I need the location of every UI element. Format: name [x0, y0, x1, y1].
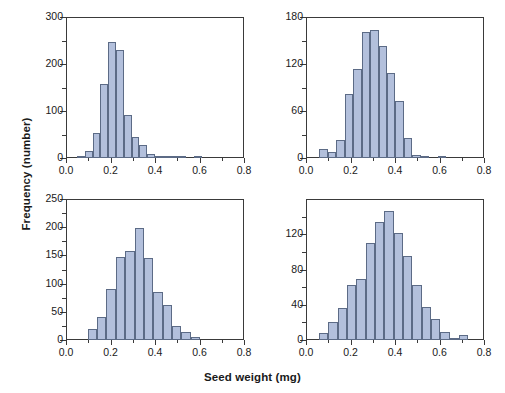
x-tick	[111, 158, 112, 163]
x-tick-minor	[222, 340, 223, 343]
y-tick-label: 120	[285, 227, 303, 239]
panel-c: (c) Battle Mountain 2002 050100150200250…	[28, 190, 250, 370]
histogram-bar	[379, 46, 387, 158]
y-tick-label: 180	[285, 10, 303, 22]
x-tick-minor	[328, 158, 329, 161]
y-tick-label: 0	[57, 151, 63, 163]
histogram-bar	[394, 233, 403, 340]
x-tick-minor	[133, 158, 134, 161]
x-tick-minor	[417, 340, 418, 343]
y-tick-minor	[302, 252, 306, 253]
panel-a-bars	[66, 17, 244, 158]
x-tick	[155, 340, 156, 345]
histogram-bar	[431, 319, 440, 340]
histogram-bar	[100, 84, 108, 158]
x-tick-label: 0.0	[286, 346, 326, 358]
x-tick-label: 0.0	[46, 346, 86, 358]
y-tick-minor	[62, 88, 66, 89]
x-tick-label: 0.6	[180, 346, 220, 358]
x-tick	[440, 158, 441, 163]
x-tick	[351, 340, 352, 345]
x-tick-minor	[462, 158, 463, 161]
histogram-bar	[370, 30, 378, 158]
x-tick-label: 0.2	[331, 346, 371, 358]
x-tick-label: 0.8	[464, 164, 504, 176]
histogram-bar	[116, 257, 125, 340]
x-tick	[111, 340, 112, 345]
y-tick-label: 300	[45, 10, 63, 22]
x-tick-label: 0.8	[224, 346, 264, 358]
x-tick-minor	[328, 340, 329, 343]
histogram-bar	[421, 156, 429, 158]
histogram-bar	[153, 292, 162, 341]
y-tick-minor	[302, 287, 306, 288]
histogram-bar	[139, 145, 147, 158]
y-tick-minor	[302, 322, 306, 323]
x-tick	[395, 340, 396, 345]
panel-b: (b) Eden Valley 2003 0601201800.00.20.40…	[268, 8, 490, 188]
x-tick	[155, 158, 156, 163]
y-tick-label: 120	[285, 57, 303, 69]
histogram-bar	[345, 94, 353, 158]
histogram-bar	[338, 308, 347, 340]
histogram-bar	[336, 140, 344, 158]
y-tick-minor	[62, 41, 66, 42]
x-tick-minor	[373, 340, 374, 343]
y-tick-label: 40	[291, 298, 303, 310]
histogram-bar	[108, 42, 116, 158]
x-tick-label: 0.4	[375, 346, 415, 358]
x-tick-minor	[133, 340, 134, 343]
histogram-bar	[163, 305, 172, 340]
x-tick-label: 0.0	[46, 164, 86, 176]
histogram-bar	[362, 32, 370, 158]
x-tick-label: 0.4	[375, 164, 415, 176]
x-tick-minor	[88, 158, 89, 161]
y-tick-label: 250	[45, 192, 63, 204]
histogram-bar	[422, 307, 431, 340]
x-tick	[244, 340, 245, 345]
x-tick	[484, 340, 485, 345]
histogram-bar	[155, 156, 163, 158]
x-tick-label: 0.2	[91, 164, 131, 176]
x-tick-label: 0.8	[464, 346, 504, 358]
x-tick	[66, 158, 67, 163]
histogram-bar	[93, 133, 101, 158]
y-tick-minor	[62, 135, 66, 136]
x-tick-minor	[373, 158, 374, 161]
histogram-bar	[106, 289, 115, 340]
x-tick	[484, 158, 485, 163]
x-tick-label: 0.4	[135, 346, 175, 358]
y-tick-minor	[62, 241, 66, 242]
y-tick-minor	[302, 88, 306, 89]
y-tick-label: 200	[45, 57, 63, 69]
x-tick-label: 0.2	[331, 164, 371, 176]
histogram-bar	[366, 243, 375, 340]
y-tick-label: 0	[57, 333, 63, 345]
x-tick-label: 0.4	[135, 164, 175, 176]
y-tick-label: 150	[45, 248, 63, 260]
histogram-bar	[347, 285, 356, 340]
histogram-bar	[147, 154, 155, 158]
panel-c-bars	[66, 199, 244, 340]
seed-weight-histogram-figure: Frequency (number) (a) Eden Valley 2002 …	[0, 0, 505, 393]
x-tick	[306, 158, 307, 163]
histogram-bar	[353, 69, 361, 158]
histogram-bar	[132, 137, 140, 158]
y-tick-minor	[302, 217, 306, 218]
y-tick-label: 50	[51, 305, 63, 317]
histogram-bar	[194, 156, 202, 158]
histogram-bar	[375, 222, 384, 340]
histogram-bar	[144, 258, 153, 340]
histogram-bar	[135, 228, 144, 340]
histogram-bar	[97, 317, 106, 340]
y-tick-label: 200	[45, 220, 63, 232]
y-tick-minor	[302, 135, 306, 136]
panel-a: (a) Eden Valley 2002 01002003000.00.20.4…	[28, 8, 250, 188]
histogram-bar	[403, 256, 412, 340]
y-tick-label: 0	[297, 333, 303, 345]
histogram-bar	[356, 279, 365, 340]
y-tick-label: 80	[291, 263, 303, 275]
histogram-bar	[172, 326, 181, 340]
histogram-bar	[116, 50, 124, 158]
x-tick	[351, 158, 352, 163]
